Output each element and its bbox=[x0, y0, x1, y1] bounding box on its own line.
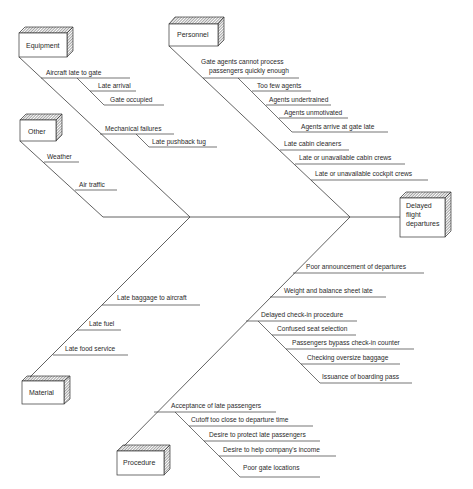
subcause-too-few-agents: Too few agents bbox=[257, 82, 302, 90]
subcause-agents-arrive-late: Agents arrive at gate late bbox=[301, 123, 375, 131]
cause-aircraft-late-to-gate: Aircraft late to gate bbox=[46, 69, 102, 77]
subcause-poor-gate-locations: Poor gate locations bbox=[243, 464, 300, 472]
cause-late-baggage: Late baggage to aircraft bbox=[117, 294, 187, 302]
cause-weather: Weather bbox=[47, 153, 73, 160]
effect-label-line-2: flight bbox=[406, 211, 421, 219]
cause-late-cabin-crews: Late or unavailable cabin crews bbox=[299, 154, 392, 161]
cause-air-traffic: Air traffic bbox=[79, 181, 106, 188]
subcause-gate-occupied: Gate occupied bbox=[110, 96, 153, 104]
cause-late-fuel: Late fuel bbox=[89, 320, 115, 327]
effect-label-line-3: departures bbox=[406, 220, 440, 228]
subcause-company-income: Desire to help company's income bbox=[223, 446, 320, 454]
effect-box: Delayed flight departures bbox=[400, 192, 451, 237]
cause-delayed-checkin: Delayed check-in procedure bbox=[261, 311, 343, 319]
cause-poor-announcement: Poor announcement of departures bbox=[306, 263, 407, 271]
subcause-late-arrival: Late arrival bbox=[98, 82, 131, 89]
cause-acceptance-late-passengers: Acceptance of late passengers bbox=[171, 402, 262, 410]
subcause-cutoff-too-close: Cutoff too close to departure time bbox=[191, 416, 289, 424]
cause-gate-agents-line-2: passengers quickly enough bbox=[209, 67, 289, 75]
personnel-label: Personnel bbox=[177, 31, 209, 38]
cause-late-food-service: Late food service bbox=[65, 345, 116, 352]
procedure-label: Procedure bbox=[123, 459, 155, 466]
cause-late-cockpit-crews: Late or unavailable cockpit crews bbox=[315, 170, 413, 178]
subcause-confused-seat-selection: Confused seat selection bbox=[277, 325, 348, 332]
cause-mechanical-failures: Mechanical failures bbox=[105, 125, 162, 132]
category-other: Other Weather Air traffic bbox=[20, 114, 117, 217]
subcause-late-pushback-tug: Late pushback tug bbox=[152, 138, 206, 146]
cause-gate-agents-line-1: Gate agents cannot process bbox=[201, 58, 284, 66]
subcause-agents-unmotivated: Agents unmotivated bbox=[284, 109, 343, 117]
category-personnel: Personnel Gate agents cannot process pas… bbox=[169, 17, 428, 217]
category-material: Material Late baggage to aircraft Late f… bbox=[22, 217, 200, 404]
cause-late-cabin-cleaners: Late cabin cleaners bbox=[284, 140, 342, 147]
category-procedure: Procedure Poor announcement of departure… bbox=[117, 217, 424, 477]
cause-weight-balance-late: Weight and balance sheet late bbox=[284, 287, 373, 295]
other-label: Other bbox=[28, 128, 46, 135]
material-label: Material bbox=[29, 389, 54, 396]
subcause-agents-undertrained: Agents undertrained bbox=[269, 96, 329, 104]
subcause-bypass-checkin: Passengers bypass check-in counter bbox=[292, 339, 401, 347]
effect-label-line-1: Delayed bbox=[406, 202, 432, 210]
equipment-label: Equipment bbox=[26, 42, 60, 50]
subcause-oversize-baggage: Checking oversize baggage bbox=[307, 354, 389, 362]
fishbone-diagram: Delayed flight departures Equipment Airc… bbox=[0, 0, 473, 489]
subcause-boarding-pass: Issuance of boarding pass bbox=[322, 373, 400, 381]
subcause-protect-late-passengers: Desire to protect late passengers bbox=[209, 431, 306, 439]
